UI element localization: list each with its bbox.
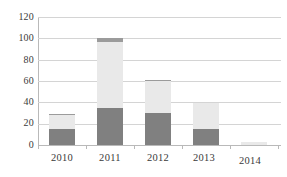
bar-stack-2011 [97, 38, 123, 145]
bar-segment-2010-series-2 [49, 115, 75, 129]
y-tick-label-80: 80 [0, 55, 34, 65]
x-tick-label-2014: 2014 [228, 155, 272, 167]
y-axis-labels: 120 100 80 60 40 20 0 [0, 0, 34, 177]
stacked-bar-chart: 120 100 80 60 40 20 0 [0, 0, 287, 177]
bar-segment-2010-series-1 [49, 129, 75, 145]
bar-stack-2012 [145, 80, 171, 145]
y-tick-label-120: 120 [0, 12, 34, 22]
plot-area [38, 17, 281, 145]
bar-stack-2013 [193, 103, 219, 145]
x-tick-2 [134, 145, 135, 149]
x-tick-label-2010: 2010 [40, 152, 84, 164]
y-tick-label-0: 0 [0, 140, 34, 150]
bar-segment-2011-series-2 [97, 42, 123, 108]
x-tick-3 [182, 145, 183, 149]
x-tick-label-2011: 2011 [88, 152, 132, 164]
y-tick-label-60: 60 [0, 76, 34, 86]
gridline-100 [38, 38, 281, 39]
bar-segment-2013-series-1 [193, 129, 219, 145]
x-tick-0 [38, 145, 39, 149]
x-tick-label-2013: 2013 [182, 152, 226, 164]
bar-segment-2012-series-2 [145, 81, 171, 113]
bar-stack-2010 [49, 114, 75, 145]
gridline-120 [38, 17, 281, 18]
x-tick-1 [86, 145, 87, 149]
y-tick-label-100: 100 [0, 33, 34, 43]
y-tick-label-40: 40 [0, 97, 34, 107]
y-tick-label-20: 20 [0, 118, 34, 128]
bar-segment-2013-series-2 [193, 103, 219, 129]
bar-segment-2012-series-1 [145, 113, 171, 145]
bar-segment-2011-series-1 [97, 108, 123, 145]
x-tick-label-2012: 2012 [136, 152, 180, 164]
x-tick-4 [230, 145, 231, 149]
x-tick-5 [278, 145, 279, 149]
gridline-80 [38, 60, 281, 61]
x-axis-line [38, 145, 281, 146]
